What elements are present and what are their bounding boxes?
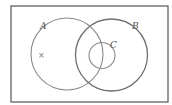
set-b-label: B xyxy=(131,21,139,31)
set-a-label: A xyxy=(39,21,47,31)
venn-svg: A B C × xyxy=(0,0,172,105)
cross-marker-icon: × xyxy=(38,51,45,60)
venn-diagram: A B C × xyxy=(0,0,172,105)
set-c-label: C xyxy=(110,40,117,50)
